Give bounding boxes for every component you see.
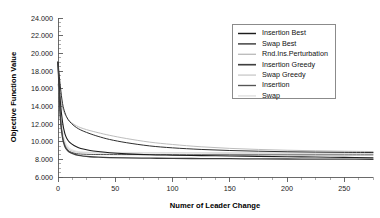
x-tick-label: 0 [56, 184, 60, 193]
legend-label: Insertion Best [262, 28, 306, 37]
x-tick-label: 250 [338, 184, 350, 193]
chart-legend: Insertion BestSwap BestRnd.Ins.Perturbat… [233, 25, 336, 100]
x-tick-label: 150 [224, 184, 236, 193]
y-tick-label: 6.000 [35, 173, 53, 182]
x-tick-label: 200 [281, 184, 293, 193]
y-tick-label: 12.000 [31, 120, 53, 129]
y-axis-tick-labels: 6.0008.00010.00012.00014.00016.00018.000… [31, 14, 53, 182]
y-tick-label: 20.000 [31, 49, 53, 58]
x-axis-tick-labels: 050100150200250 [56, 184, 350, 193]
y-tick-label: 16.000 [31, 84, 53, 93]
x-tick-label: 100 [167, 184, 179, 193]
y-tick-label: 22.000 [31, 31, 53, 40]
y-tick-label: 24.000 [31, 14, 53, 23]
x-axis-ticks [58, 177, 373, 182]
y-tick-label: 18.000 [31, 67, 53, 76]
legend-label: Swap Greedy [262, 70, 306, 79]
x-axis-title: Numer of Leader Change [170, 201, 260, 210]
chart-figure: 6.0008.00010.00012.00014.00016.00018.000… [0, 0, 380, 218]
y-tick-label: 8.000 [35, 155, 53, 164]
legend-label: Insertion Greedy [262, 60, 316, 69]
legend-label: Swap [262, 91, 280, 100]
legend-label: Insertion [262, 80, 290, 89]
y-tick-label: 10.000 [31, 137, 53, 146]
line-chart: 6.0008.00010.00012.00014.00016.00018.000… [0, 0, 380, 218]
legend-label: Rnd.Ins.Perturbation [262, 49, 328, 58]
y-tick-label: 14.000 [31, 102, 53, 111]
x-tick-label: 50 [111, 184, 119, 193]
legend-label: Swap Best [262, 39, 296, 48]
y-axis-title: Objective Function Value [9, 52, 18, 142]
